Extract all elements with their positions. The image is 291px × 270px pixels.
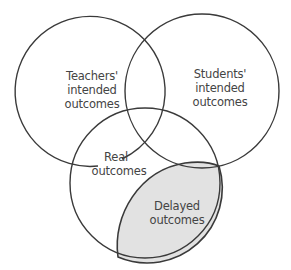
real-outcomes-label-line: Real bbox=[84, 150, 154, 164]
students-label: Students' intended outcomes bbox=[180, 67, 260, 109]
teachers-label-line: Teachers' bbox=[52, 69, 132, 83]
delayed-outcomes-label-line: outcomes bbox=[142, 213, 212, 227]
delayed-outcomes-label: Delayed outcomes bbox=[142, 199, 212, 227]
delayed-outcomes-label-line: Delayed bbox=[142, 199, 212, 213]
teachers-label-line: intended bbox=[52, 83, 132, 97]
venn-diagram bbox=[0, 0, 291, 270]
students-label-line: outcomes bbox=[180, 95, 260, 109]
real-outcomes-label-line: outcomes bbox=[84, 164, 154, 178]
students-label-line: Students' bbox=[180, 67, 260, 81]
real-outcomes-label: Real outcomes bbox=[84, 150, 154, 178]
students-label-line: intended bbox=[180, 81, 260, 95]
teachers-label-line: outcomes bbox=[52, 97, 132, 111]
teachers-label: Teachers' intended outcomes bbox=[52, 69, 132, 111]
